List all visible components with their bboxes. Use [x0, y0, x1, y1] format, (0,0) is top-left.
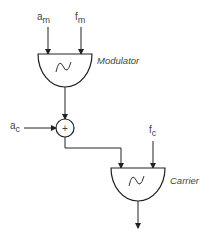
label-a-c: ac — [10, 120, 21, 134]
svg-text:am: am — [37, 11, 50, 25]
plus-icon: + — [62, 123, 68, 134]
label-a-m: am — [37, 11, 50, 25]
fm-synthesis-diagram: am fm Modulator ac + fc Carrier — [0, 0, 209, 241]
modulator-label: Modulator — [97, 55, 140, 66]
adder-node: + — [56, 119, 74, 137]
carrier-label: Carrier — [170, 175, 200, 186]
label-f-m: fm — [75, 11, 85, 25]
svg-text:fc: fc — [149, 124, 157, 138]
carrier-oscillator — [111, 168, 165, 201]
svg-text:fm: fm — [75, 11, 85, 25]
modulator-oscillator — [38, 54, 92, 87]
svg-text:ac: ac — [10, 120, 21, 134]
adder-output-line — [65, 137, 121, 168]
label-f-c: fc — [149, 124, 157, 138]
